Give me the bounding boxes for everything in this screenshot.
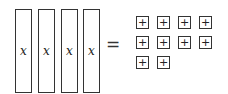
plus-icon: + (179, 37, 190, 48)
equals-sign: = (106, 36, 120, 53)
plus-icon: + (158, 17, 169, 28)
unit-tile: + (136, 56, 149, 69)
plus-icon: + (179, 17, 190, 28)
plus-icon: + (200, 37, 211, 48)
unit-tile: + (136, 36, 149, 49)
plus-icon: + (137, 57, 148, 68)
x-tile: x (38, 9, 55, 93)
x-label: x (62, 44, 77, 58)
unit-tile: + (199, 16, 212, 29)
unit-tile: + (178, 36, 191, 49)
unit-tile: + (178, 16, 191, 29)
x-label: x (39, 44, 54, 58)
x-label: x (84, 44, 99, 58)
plus-icon: + (158, 37, 169, 48)
unit-tile: + (136, 16, 149, 29)
plus-icon: + (200, 17, 211, 28)
plus-icon: + (137, 37, 148, 48)
x-tile: x (15, 9, 32, 93)
x-label: x (16, 44, 31, 58)
unit-tile: + (157, 36, 170, 49)
x-tile: x (61, 9, 78, 93)
unit-tile: + (157, 56, 170, 69)
x-tile: x (83, 9, 100, 93)
unit-tile: + (157, 16, 170, 29)
plus-icon: + (158, 57, 169, 68)
unit-tile: + (199, 36, 212, 49)
plus-icon: + (137, 17, 148, 28)
